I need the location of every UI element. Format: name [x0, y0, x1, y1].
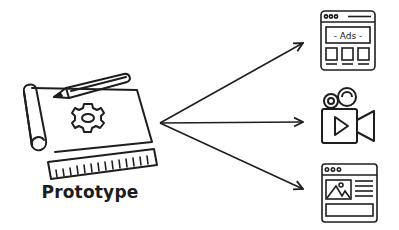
arrows	[160, 43, 303, 189]
prototype-label: Prototype	[40, 182, 140, 202]
arrow-to-ads	[160, 43, 303, 123]
gear-icon	[72, 104, 104, 132]
blueprint-icon	[24, 74, 157, 179]
browser-ads-icon	[321, 11, 375, 70]
arrow-to-image	[160, 123, 303, 189]
mountain-icon	[327, 186, 350, 198]
video-camera-icon	[322, 88, 374, 143]
browser-image-icon	[322, 164, 377, 222]
pencil-icon	[54, 74, 130, 98]
ads-label: - Ads -	[334, 31, 363, 41]
ruler-icon	[48, 149, 157, 179]
arrow-to-video	[160, 122, 303, 123]
play-icon	[335, 117, 348, 135]
